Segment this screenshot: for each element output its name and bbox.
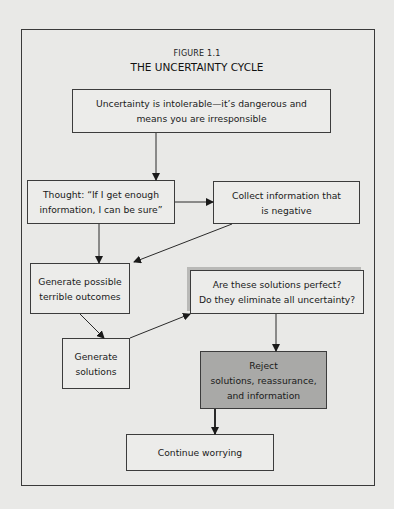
connector-arrows: [0, 0, 394, 509]
arrow-collect-outcomes: [134, 224, 232, 262]
arrow-outcomes-solutions: [80, 314, 104, 338]
arrow-solutions-perfect: [130, 314, 190, 338]
